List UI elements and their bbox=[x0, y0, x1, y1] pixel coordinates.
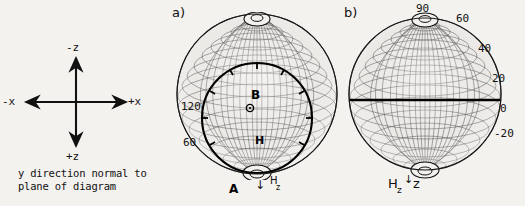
panel-b-axis-label-z: z bbox=[413, 177, 420, 190]
panel-a-label-H: H bbox=[255, 135, 264, 146]
panel-b-stereographic-sphere bbox=[348, 12, 504, 180]
legend-caption-line1: y direction normal to bbox=[18, 168, 147, 179]
axes-cross-icon bbox=[0, 40, 175, 160]
panel-a-label-A: A bbox=[229, 183, 238, 195]
panel-a-field-label-sub-z: z bbox=[276, 184, 280, 192]
axis-label-plus-x: +x bbox=[128, 96, 141, 107]
panel-b-arrow-down-icon: ↓ bbox=[404, 174, 413, 185]
panel-b-tick-60: 60 bbox=[456, 13, 469, 24]
legend-caption-line2: plane of diagram bbox=[18, 181, 116, 192]
panel-a-label-B: B bbox=[251, 89, 260, 101]
panel-b-field-label-sub-z: z bbox=[397, 186, 402, 195]
panel-a-tick-60: 60 bbox=[183, 137, 196, 148]
axis-label-plus-z: +z bbox=[66, 151, 79, 162]
panel-b-tick-minus20: -20 bbox=[494, 128, 514, 139]
panel-b-tick-90: 90 bbox=[416, 3, 429, 14]
panel-a-arrow-down-icon: ↓ bbox=[255, 179, 265, 191]
coordinate-axes-legend: -z +z +x -x y direction normal to plane … bbox=[0, 40, 175, 206]
axis-label-minus-z: -z bbox=[66, 42, 79, 53]
panel-b-tick-20: 20 bbox=[492, 73, 505, 84]
panel-a-tick-120: 120 bbox=[181, 101, 201, 112]
panel-b-tick-40: 40 bbox=[478, 43, 491, 54]
panel-b-tick-0: 0 bbox=[500, 103, 507, 114]
figure-canvas: -z +z +x -x y direction normal to plane … bbox=[0, 0, 525, 206]
axis-label-minus-x: -x bbox=[2, 96, 15, 107]
